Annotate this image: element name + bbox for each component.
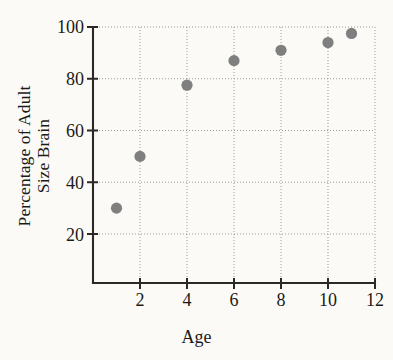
data-point	[181, 80, 192, 91]
data-point	[111, 203, 122, 214]
tick-marks-group	[87, 27, 375, 289]
scatter-chart-figure: Percentage of Adult Size Brain 100 80 60…	[0, 0, 393, 360]
data-point	[134, 151, 145, 162]
data-point	[346, 28, 357, 39]
plot-area	[0, 0, 393, 360]
data-point	[275, 45, 286, 56]
data-point	[322, 37, 333, 48]
data-point	[228, 55, 239, 66]
